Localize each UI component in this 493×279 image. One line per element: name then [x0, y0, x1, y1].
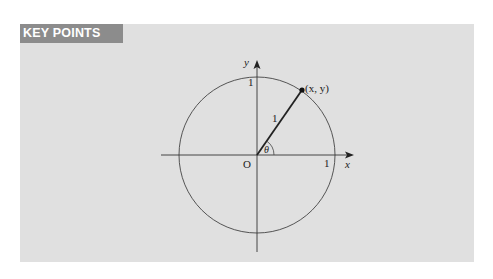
point-label: (x, y): [305, 82, 329, 95]
y-axis-label: y: [243, 56, 249, 68]
angle-label: θ: [264, 144, 269, 155]
x-intercept-label: 1: [324, 157, 330, 169]
x-axis-label: x: [344, 158, 350, 170]
point-marker: [299, 87, 304, 92]
unit-circle-diagram: y x O 1 1 1 (x, y) θ: [0, 0, 493, 279]
origin-label: O: [243, 158, 251, 170]
radius-label: 1: [272, 112, 278, 124]
y-intercept-label: 1: [248, 76, 254, 88]
